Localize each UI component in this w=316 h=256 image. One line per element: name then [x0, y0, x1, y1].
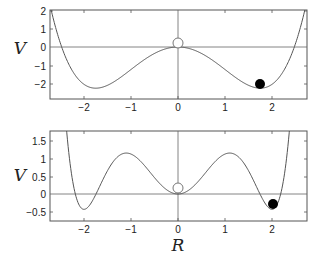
top-xtick-m2: −2	[78, 102, 90, 113]
top-y-axis-label: V	[14, 38, 28, 58]
top-ytick-1: 1	[40, 24, 46, 35]
top-open-circle-marker	[173, 38, 183, 48]
bottom-ytick-m0.5: −0.5	[26, 207, 46, 218]
bottom-xtick-m1: −1	[125, 224, 137, 235]
top-ytick-2: 2	[40, 6, 46, 17]
top-y-tick-labels: 2 1 0 −1 −2	[35, 6, 47, 90]
bottom-xtick-1: 1	[222, 224, 228, 235]
bottom-x-axis-label: R	[171, 235, 185, 255]
top-ytick-m1: −1	[35, 61, 47, 72]
top-xtick-0: 0	[175, 102, 181, 113]
bottom-xtick-m2: −2	[78, 224, 90, 235]
top-plot-frame	[50, 10, 307, 99]
top-xtick-1: 1	[222, 102, 228, 113]
top-x-tick-labels: −2 −1 0 1 2	[78, 102, 275, 113]
bottom-xtick-0: 0	[175, 224, 181, 235]
bottom-ytick-1: 1	[40, 154, 46, 165]
bottom-xtick-2: 2	[269, 224, 275, 235]
bottom-ytick-0.5: 0.5	[32, 172, 46, 183]
bottom-y-ticks	[50, 141, 307, 212]
top-plot: 2 1 0 −1 −2 −2 −1 0 1 2 V	[14, 0, 310, 113]
bottom-open-circle-marker	[173, 183, 183, 193]
bottom-filled-circle-marker	[268, 199, 278, 209]
top-xtick-m1: −1	[125, 102, 137, 113]
top-filled-circle-marker	[255, 79, 265, 89]
top-ytick-0: 0	[40, 42, 46, 53]
figure: 2 1 0 −1 −2 −2 −1 0 1 2 V	[0, 0, 316, 256]
bottom-ytick-0: 0	[40, 189, 46, 200]
bottom-x-tick-labels: −2 −1 0 1 2	[78, 224, 275, 235]
bottom-y-tick-labels: 1.5 1 0.5 0 −0.5	[26, 136, 46, 218]
top-ytick-m2: −2	[35, 79, 47, 90]
bottom-ytick-1.5: 1.5	[32, 136, 46, 147]
bottom-y-axis-label: V	[14, 165, 28, 185]
bottom-plot: 1.5 1 0.5 0 −0.5 −2 −1 0 1 2 V R	[14, 0, 310, 255]
top-xtick-2: 2	[269, 102, 275, 113]
